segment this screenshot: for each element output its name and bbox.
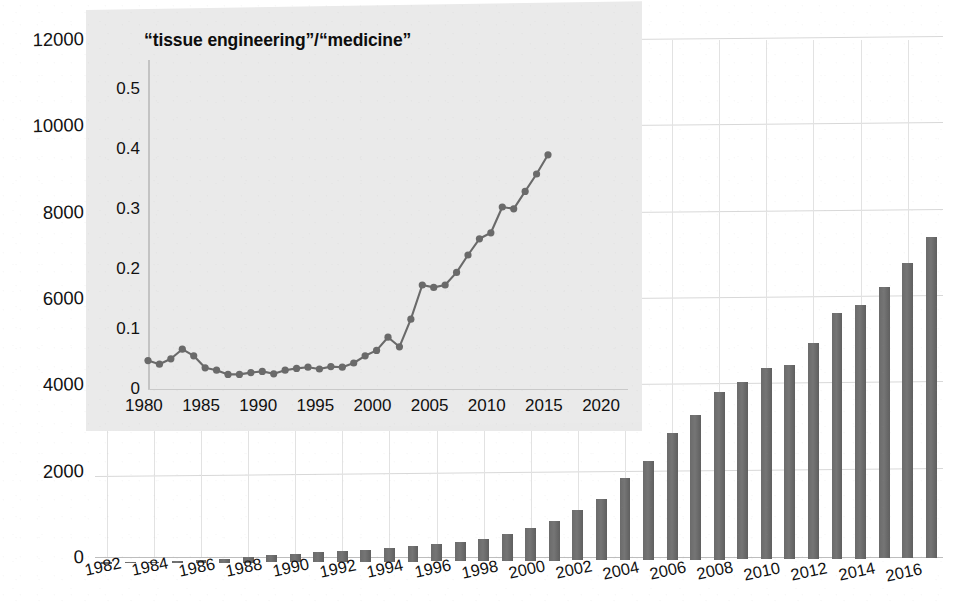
inset-data-point (442, 281, 449, 288)
main-x-tick-label: 2006 (648, 557, 688, 583)
inset-data-point (384, 334, 391, 341)
inset-data-point (430, 284, 437, 291)
inset-data-point (487, 229, 494, 236)
inset-line-path (148, 155, 548, 375)
inset-data-point (544, 151, 551, 158)
inset-data-point (156, 361, 163, 368)
main-x-tick-label: 1988 (224, 554, 264, 580)
main-x-tick-label: 1990 (271, 555, 311, 581)
inset-data-point (362, 352, 369, 359)
main-x-tick-label: 2000 (507, 556, 547, 582)
main-x-tick-label: 2002 (554, 557, 594, 583)
inset-data-point (270, 370, 277, 377)
inset-x-tick-label: 2015 (525, 396, 563, 416)
inset-data-point (213, 367, 220, 374)
main-x-tick-label: 1992 (318, 555, 358, 581)
inset-data-point (247, 369, 254, 376)
main-x-tick-label: 2010 (742, 558, 782, 584)
inset-data-point (499, 203, 506, 210)
inset-y-tick-label: 0.3 (90, 199, 140, 219)
main-x-tick-label: 2004 (601, 557, 641, 583)
inset-data-point (522, 188, 529, 195)
inset-y-tick-label: 0.5 (90, 79, 140, 99)
inset-data-point (236, 371, 243, 378)
inset-data-point (419, 281, 426, 288)
main-x-tick-label: 2008 (695, 558, 735, 584)
main-x-tick-label: 1996 (413, 556, 453, 582)
inset-data-point (202, 364, 209, 371)
inset-data-point (339, 364, 346, 371)
inset-x-tick-label: 2005 (411, 396, 449, 416)
inset-data-point (476, 235, 483, 242)
inset-data-point (464, 251, 471, 258)
inset-x-tick-label: 2020 (582, 396, 620, 416)
inset-y-tick-label: 0.4 (90, 139, 140, 159)
inset-y-tick-label: 0.1 (90, 319, 140, 339)
figure-root: 020004000600080001000012000 198219841986… (0, 0, 953, 608)
inset-data-point (327, 363, 334, 370)
inset-data-point (224, 371, 231, 378)
inset-data-point (179, 346, 186, 353)
inset-x-tick-label: 1995 (296, 396, 334, 416)
inset-data-point (453, 269, 460, 276)
inset-data-point (350, 359, 357, 366)
inset-x-tick-label: 2010 (468, 396, 506, 416)
inset-data-point (144, 357, 151, 364)
inset-x-tick-label: 2000 (354, 396, 392, 416)
inset-data-point (259, 368, 266, 375)
inset-data-point (533, 170, 540, 177)
inset-data-point (304, 364, 311, 371)
inset-data-point (407, 316, 414, 323)
inset-data-point (396, 343, 403, 350)
inset-data-point (190, 352, 197, 359)
main-x-tick-label: 2014 (837, 559, 877, 585)
main-x-tick-label: 1994 (365, 555, 405, 581)
main-x-tick-label: 1986 (177, 554, 217, 580)
main-x-tick-label: 2016 (884, 559, 924, 585)
inset-data-point (373, 347, 380, 354)
inset-y-tick-label: 0.2 (90, 259, 140, 279)
main-x-tick-label: 2012 (789, 558, 829, 584)
main-x-tick-label: 1984 (130, 554, 170, 580)
main-x-tick-label: 1998 (460, 556, 500, 582)
inset-data-point (510, 205, 517, 212)
main-x-tick-label: 1982 (83, 553, 123, 579)
inset-data-point (282, 367, 289, 374)
inset-chart-title: “tissue engineering”/“medicine” (144, 30, 411, 51)
inset-x-tick-label: 1990 (239, 396, 277, 416)
inset-data-point (167, 355, 174, 362)
inset-line-series (148, 60, 628, 390)
inset-x-tick-label: 1985 (182, 396, 220, 416)
inset-x-tick-label: 1980 (125, 396, 163, 416)
inset-panel: “tissue engineering”/“medicine” 00.10.20… (86, 10, 642, 431)
inset-line-chart-plot-area (148, 60, 628, 390)
inset-data-point (316, 365, 323, 372)
inset-data-point (293, 365, 300, 372)
